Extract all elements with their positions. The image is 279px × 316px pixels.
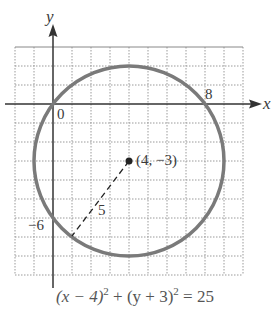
equation-part-3: = 25	[179, 287, 214, 306]
equation-part-1: (x − 4)	[56, 287, 103, 306]
origin-label: 0	[57, 107, 65, 122]
y-intercept-label: −6	[28, 218, 44, 233]
center-point	[126, 158, 133, 165]
x-intercept-label: 8	[205, 87, 213, 102]
y-axis-label: y	[46, 8, 54, 25]
radius-label: 5	[98, 203, 106, 218]
x-axis-label: x	[263, 95, 271, 112]
center-label: (4, −3)	[136, 153, 177, 168]
equation-part-2: + (y + 3)	[109, 287, 174, 306]
circle-equation: (x − 4)2 + (y + 3)2 = 25	[56, 285, 214, 307]
